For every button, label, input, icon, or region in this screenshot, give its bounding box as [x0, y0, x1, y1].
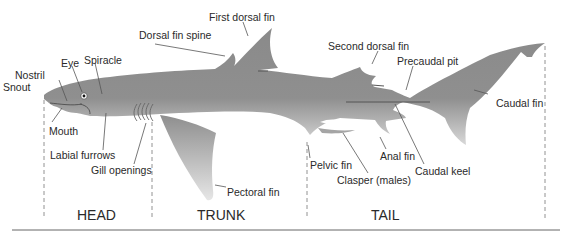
- label-precaudal-pit: Precaudal pit: [397, 55, 458, 67]
- label-pelvic-fin: Pelvic fin: [310, 159, 352, 171]
- region-label-tail: TAIL: [371, 207, 400, 223]
- label-dorsal-fin-spine: Dorsal fin spine: [139, 29, 211, 41]
- label-gill-openings: Gill openings: [91, 164, 152, 176]
- label-caudal-fin: Caudal fin: [496, 97, 543, 109]
- region-label-trunk: TRUNK: [197, 207, 245, 223]
- label-spiracle: Spiracle: [84, 54, 122, 66]
- label-labial-furrows: Labial furrows: [50, 149, 115, 161]
- label-eye: Eye: [61, 57, 79, 69]
- shark-illustration: [0, 0, 572, 237]
- label-nostril: Nostril: [15, 69, 45, 81]
- label-mouth: Mouth: [49, 125, 78, 137]
- label-second-dorsal-fin: Second dorsal fin: [328, 40, 409, 52]
- label-pectoral-fin: Pectoral fin: [227, 186, 280, 198]
- shark-anatomy-diagram: Snout Nostril Eye Spiracle Dorsal fin sp…: [0, 0, 572, 237]
- clasper-shape: [318, 128, 355, 133]
- label-first-dorsal-fin: First dorsal fin: [209, 11, 275, 23]
- label-caudal-keel: Caudal keel: [415, 165, 470, 177]
- region-label-head: HEAD: [77, 207, 116, 223]
- shark-body-shape: [44, 28, 545, 145]
- label-snout: Snout: [3, 81, 30, 93]
- label-anal-fin: Anal fin: [380, 150, 415, 162]
- pectoral-fin-shape: [160, 115, 216, 200]
- label-clasper: Clasper (males): [337, 174, 411, 186]
- dorsal-base-line: [372, 85, 384, 86]
